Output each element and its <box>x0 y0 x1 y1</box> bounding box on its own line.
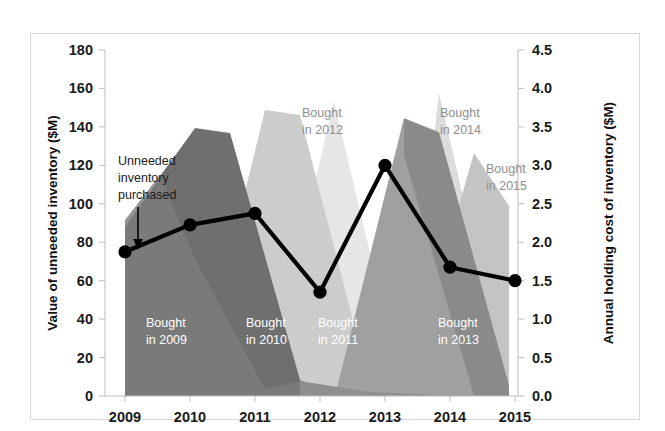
data-point-2009 <box>118 245 131 258</box>
area-label-bought-2009-line2: in 2009 <box>146 333 187 347</box>
left-tick-40: 40 <box>77 311 93 327</box>
area-label-bought-2009-line1: Bought <box>146 316 186 330</box>
left-tick-80: 80 <box>77 234 93 250</box>
chart-canvas: 180 160 140 120 100 80 60 40 20 0 4.5 4.… <box>0 0 665 431</box>
left-tick-120: 120 <box>69 157 93 173</box>
data-point-2014 <box>443 261 456 274</box>
right-tick-4-0: 4.0 <box>532 80 552 96</box>
area-label-bought-2015-line2: in 2015 <box>486 179 527 193</box>
category-label-2013: 2013 <box>369 409 401 425</box>
category-label-2010: 2010 <box>174 409 206 425</box>
area-label-bought-2012-line1: Bought <box>302 106 342 120</box>
left-tick-0: 0 <box>85 388 93 404</box>
right-tick-0-5: 0.5 <box>532 350 552 366</box>
stacked-area-group <box>125 93 509 396</box>
area-label-bought-2015-line1: Bought <box>486 162 526 176</box>
left-tick-60: 60 <box>77 273 93 289</box>
annotation-line-2: inventory <box>118 171 169 185</box>
right-tick-0-0: 0.0 <box>532 388 552 404</box>
area-label-bought-2011-line2: in 2011 <box>318 333 358 347</box>
right-axis-title: Annual holding cost of inventory ($M) <box>601 102 616 344</box>
area-label-bought-2014-line1: Bought <box>440 106 480 120</box>
area-label-bought-2013-line2: in 2013 <box>438 333 479 347</box>
left-tick-140: 140 <box>69 119 93 135</box>
area-label-bought-2011-line1: Bought <box>318 316 358 330</box>
left-axis-title: Value of unneeded inventory ($M) <box>45 115 60 330</box>
annotation-line-1: Unneeded <box>118 154 176 168</box>
area-label-bought-2010-line2: in 2010 <box>246 333 287 347</box>
right-tick-3-5: 3.5 <box>532 119 552 135</box>
category-label-2015: 2015 <box>499 409 531 425</box>
right-tick-3-0: 3.0 <box>532 157 552 173</box>
right-tick-2-5: 2.5 <box>532 196 552 212</box>
area-label-bought-2015: Bought in 2015 <box>486 162 527 193</box>
right-tick-4-5: 4.5 <box>532 42 552 58</box>
area-label-bought-2013-line1: Bought <box>438 316 478 330</box>
area-label-bought-2012-line2: in 2012 <box>302 123 343 137</box>
data-point-2010 <box>183 218 196 231</box>
data-point-2015 <box>508 274 521 287</box>
left-axis-ticks <box>99 50 105 396</box>
right-tick-1-5: 1.5 <box>532 273 552 289</box>
category-label-2011: 2011 <box>239 409 270 425</box>
left-tick-160: 160 <box>69 80 93 96</box>
category-axis-ticks <box>125 396 515 402</box>
right-tick-1-0: 1.0 <box>532 311 552 327</box>
data-point-2012 <box>313 286 326 299</box>
left-tick-180: 180 <box>69 42 93 58</box>
category-label-2014: 2014 <box>434 409 466 425</box>
area-label-bought-2010-line1: Bought <box>246 316 286 330</box>
annotation-line-3: purchased <box>118 188 176 202</box>
left-tick-20: 20 <box>77 350 93 366</box>
chart-figure: 180 160 140 120 100 80 60 40 20 0 4.5 4.… <box>0 0 665 431</box>
data-point-2013 <box>378 159 391 172</box>
category-label-2012: 2012 <box>304 409 336 425</box>
area-label-bought-2014-line2: in 2014 <box>440 123 481 137</box>
category-label-2009: 2009 <box>109 409 141 425</box>
area-label-bought-2014: Bought in 2014 <box>440 106 481 137</box>
data-point-2011 <box>248 207 261 220</box>
right-tick-2-0: 2.0 <box>532 234 552 250</box>
left-tick-100: 100 <box>69 196 93 212</box>
right-axis-ticks <box>518 50 524 396</box>
